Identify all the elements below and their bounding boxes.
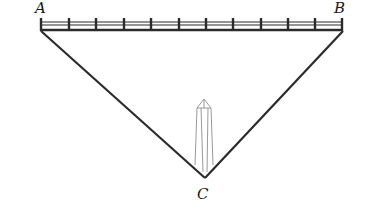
label-a: A — [35, 1, 46, 16]
diagram-canvas — [0, 0, 365, 214]
label-b: B — [334, 1, 345, 16]
obelisk — [195, 99, 213, 172]
triangle-lines — [41, 31, 343, 178]
label-c: C — [197, 187, 208, 202]
bridge-railing — [40, 18, 343, 31]
